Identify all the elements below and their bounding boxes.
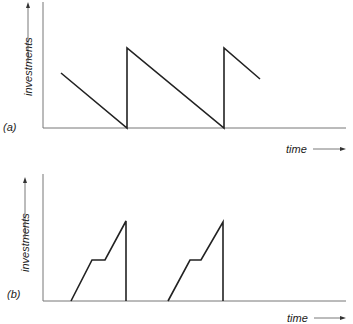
diagram-canvas: investments (a) time investments (b) tim…	[0, 0, 353, 324]
panel-tag-a: (a)	[3, 121, 17, 133]
panel-tag-b: (b)	[7, 288, 21, 300]
panel-b: investments (b) time	[7, 174, 346, 324]
x-axis-label-a: time	[286, 143, 307, 155]
y-axis-label-b: investments	[19, 213, 31, 272]
panel-a: investments (a) time	[3, 2, 346, 155]
arrow-right-icon	[340, 147, 346, 151]
ramp-curve-1	[71, 221, 126, 301]
arrow-up-icon	[26, 2, 30, 8]
sawtooth-curve	[61, 48, 260, 128]
x-axis-label-b: time	[287, 312, 308, 324]
arrow-right-icon	[340, 316, 346, 320]
ramp-curve-2	[168, 222, 223, 301]
y-axis-label-a: investments	[22, 37, 34, 96]
arrow-up-icon	[23, 177, 27, 183]
